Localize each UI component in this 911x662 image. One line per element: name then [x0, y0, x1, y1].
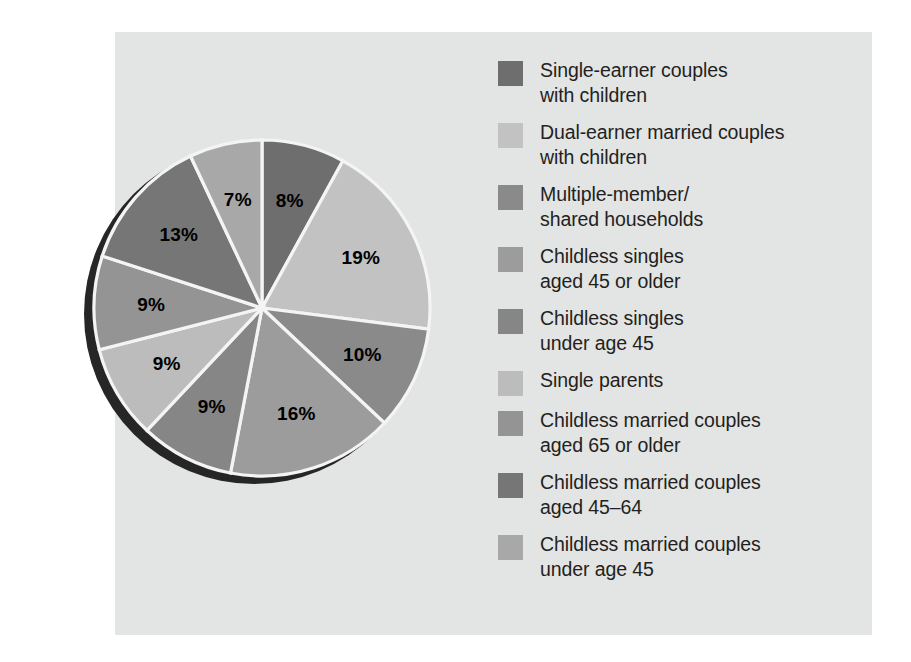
legend-color-swatch [498, 535, 523, 560]
legend-item: Childless married couples aged 45–64 [498, 470, 858, 520]
legend-item: Single parents [498, 368, 858, 396]
pie-slice-value-label: 9% [198, 396, 226, 418]
legend-item: Childless married couples under age 45 [498, 532, 858, 582]
pie-slice-value-label: 19% [341, 247, 380, 269]
legend-color-swatch [498, 411, 523, 436]
pie-slice-value-label: 8% [276, 190, 304, 212]
legend-color-swatch [498, 473, 523, 498]
legend-item: Single-earner couples with children [498, 58, 858, 108]
legend-color-swatch [498, 371, 523, 396]
legend-item-label: Childless singles under age 45 [540, 306, 684, 356]
legend-item-label: Single parents [540, 368, 663, 393]
legend-item-label: Multiple-member/ shared households [540, 182, 703, 232]
legend-item-label: Childless singles aged 45 or older [540, 244, 684, 294]
pie-slice-value-label: 16% [277, 403, 316, 425]
pie-slice-value-label: 9% [153, 353, 181, 375]
figure-panel: 8%19%10%16%9%9%9%13%7% Single-earner cou… [115, 32, 872, 635]
legend-item: Multiple-member/ shared households [498, 182, 858, 232]
legend-color-swatch [498, 123, 523, 148]
legend-item-label: Dual-earner married couples with childre… [540, 120, 784, 170]
legend-item: Childless singles under age 45 [498, 306, 858, 356]
legend: Single-earner couples with childrenDual-… [498, 58, 858, 594]
pie-chart: 8%19%10%16%9%9%9%13%7% [84, 138, 442, 496]
legend-item-label: Childless married couples under age 45 [540, 532, 761, 582]
legend-item: Dual-earner married couples with childre… [498, 120, 858, 170]
legend-color-swatch [498, 309, 523, 334]
legend-item-label: Childless married couples aged 45–64 [540, 470, 761, 520]
legend-color-swatch [498, 61, 523, 86]
legend-item: Childless singles aged 45 or older [498, 244, 858, 294]
legend-color-swatch [498, 247, 523, 272]
legend-item: Childless married couples aged 65 or old… [498, 408, 858, 458]
pie-slice-value-label: 7% [224, 189, 252, 211]
pie-slice-value-label: 13% [159, 224, 198, 246]
pie-slice-value-label: 9% [137, 294, 165, 316]
pie-slice-value-label: 10% [343, 344, 382, 366]
legend-item-label: Single-earner couples with children [540, 58, 728, 108]
legend-item-label: Childless married couples aged 65 or old… [540, 408, 761, 458]
legend-color-swatch [498, 185, 523, 210]
